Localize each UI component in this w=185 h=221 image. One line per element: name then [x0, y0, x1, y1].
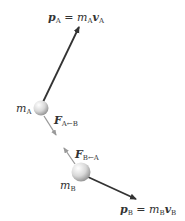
ball-a	[34, 101, 49, 116]
force-b-label: FB←A	[75, 149, 99, 162]
mass-b-label: mB	[60, 180, 76, 193]
momentum-b-arrow	[88, 177, 136, 199]
mass-a-label: mA	[16, 103, 32, 116]
ball-b	[72, 163, 91, 182]
momentum-b-label: pB = mBvB	[120, 204, 176, 217]
momentum-a-arrow	[43, 27, 79, 102]
force-b-arrow	[64, 148, 75, 164]
momentum-a-label: pA = mAvA	[48, 12, 104, 25]
force-a-label: FA←B	[54, 115, 78, 128]
